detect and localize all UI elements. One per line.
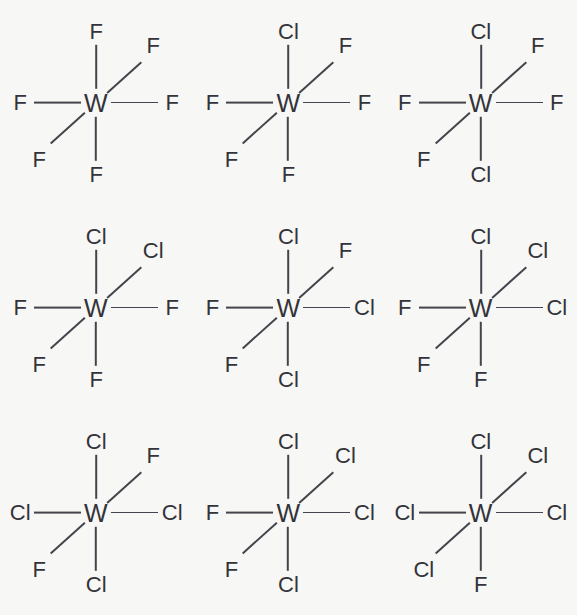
ligand-upright: F [339,35,352,57]
center-atom: W [276,500,300,525]
ligand-right: Cl [546,502,567,524]
bond-downleft [50,317,85,349]
bond-up [480,249,482,293]
bond-right [496,307,543,309]
molecule-3: WClFFFFCl [385,0,577,205]
bond-upright [107,471,142,503]
center-atom: W [276,295,300,320]
bond-downleft [435,317,470,349]
ligand-upright: Cl [335,445,356,467]
ligand-left: F [398,297,411,319]
bond-down [480,321,482,365]
bond-up [288,249,290,293]
molecule-6: WClClFClFF [385,205,577,410]
ligand-downleft: F [417,354,430,376]
ligand-left: F [206,297,219,319]
bond-right [303,102,350,104]
center-atom: W [469,295,493,320]
molecule-5: WClFFClFCl [192,205,384,410]
bond-up [95,454,97,498]
molecule-8: WClClFClFCl [192,410,384,615]
bond-right [496,512,543,514]
bond-downleft [243,112,278,144]
ligand-up: Cl [86,226,107,248]
ligand-left: Cl [10,502,31,524]
bond-down [288,116,290,160]
molecule-1: WFFFFFF [0,0,192,205]
bond-downleft [50,112,85,144]
ligand-left: Cl [394,502,415,524]
ligand-up: Cl [470,431,491,453]
ligand-right: F [550,92,563,114]
molecule-4: WClClFFFF [0,205,192,410]
bond-right [496,102,543,104]
ligand-down: Cl [86,574,107,596]
bond-right [303,307,350,309]
ligand-right: F [358,92,371,114]
molecule-2: WClFFFFF [192,0,384,205]
bond-left [419,102,466,104]
ligand-up: Cl [470,226,491,248]
bond-right [111,307,158,309]
ligand-downleft: F [32,149,45,171]
bond-left [34,307,81,309]
center-atom: W [84,295,108,320]
ligand-right: Cl [354,297,375,319]
ligand-downleft: F [225,149,238,171]
ligand-upright: F [146,445,159,467]
ligand-right: Cl [354,502,375,524]
bond-downleft [243,522,278,554]
bond-down [95,321,97,365]
ligand-left: F [206,92,219,114]
ligand-down: Cl [470,164,491,186]
bond-up [95,44,97,88]
ligand-left: F [398,92,411,114]
center-atom: W [84,500,108,525]
bond-up [480,44,482,88]
bond-down [480,526,482,570]
center-atom: W [84,90,108,115]
molecule-grid: WFFFFFFWClFFFFFWClFFFFClWClClFFFFWClFFCl… [0,0,577,615]
bond-upright [491,266,526,298]
bond-left [34,512,81,514]
bond-left [226,102,273,104]
ligand-upright: Cl [143,240,164,262]
bond-upright [491,471,526,503]
ligand-up: Cl [278,226,299,248]
ligand-upright: Cl [527,445,548,467]
ligand-left: F [13,297,26,319]
bond-downleft [50,522,85,554]
bond-downleft [435,112,470,144]
ligand-downleft: F [417,149,430,171]
center-atom: W [469,90,493,115]
molecule-9: WClClClClClF [385,410,577,615]
bond-upright [299,471,334,503]
ligand-down: F [474,369,487,391]
bond-left [226,512,273,514]
bond-upright [491,61,526,93]
ligand-downleft: F [32,559,45,581]
bond-left [419,307,466,309]
ligand-upright: F [146,35,159,57]
ligand-up: Cl [278,21,299,43]
ligand-downleft: F [225,354,238,376]
bond-upright [299,61,334,93]
ligand-up: Cl [86,431,107,453]
bond-down [95,116,97,160]
ligand-down: Cl [278,574,299,596]
bond-up [480,454,482,498]
bond-left [226,307,273,309]
ligand-upright: Cl [527,240,548,262]
ligand-upright: F [531,35,544,57]
ligand-down: F [474,574,487,596]
bond-down [288,321,290,365]
bond-up [288,44,290,88]
bond-down [480,116,482,160]
ligand-down: Cl [278,369,299,391]
bond-left [34,102,81,104]
bond-up [95,249,97,293]
ligand-down: F [89,369,102,391]
bond-downleft [435,522,470,554]
bond-down [288,526,290,570]
ligand-left: F [13,92,26,114]
